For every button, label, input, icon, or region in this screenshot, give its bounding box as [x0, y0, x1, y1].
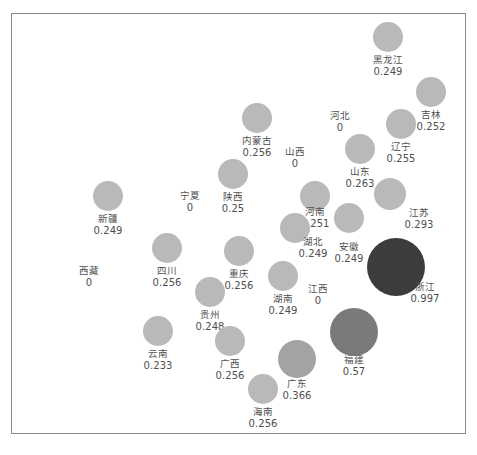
label-province-value: 0.252 [416, 121, 445, 133]
bubble-label-江西: 江西0 [308, 283, 328, 307]
bubble-海南[interactable] [248, 374, 278, 404]
label-province-value: 0.256 [248, 418, 277, 430]
bubble-label-宁夏: 宁夏0 [180, 190, 200, 214]
label-province-name: 安徽 [334, 241, 363, 253]
bubble-label-广东: 广东0.366 [282, 378, 311, 402]
label-province-value: 0 [308, 295, 328, 307]
bubble-label-陕西: 陕西0.25 [222, 191, 245, 215]
label-province-name: 江西 [308, 283, 328, 295]
label-province-value: 0.255 [386, 153, 415, 165]
label-province-value: 0.256 [242, 147, 272, 159]
label-province-value: 0.293 [404, 219, 433, 231]
label-province-value: 0.256 [152, 277, 181, 289]
label-province-name: 江苏 [404, 207, 433, 219]
bubble-layer: 黑龙江0.249吉林0.252河北0辽宁0.255内蒙古0.256山西0山东0.… [0, 0, 477, 455]
label-province-name: 河北 [330, 110, 350, 122]
bubble-新疆[interactable] [93, 181, 123, 211]
bubble-label-福建: 福建0.57 [343, 354, 366, 378]
bubble-四川[interactable] [152, 233, 182, 263]
bubble-江苏[interactable] [374, 178, 406, 210]
label-province-value: 0.249 [93, 225, 122, 237]
label-province-name: 山西 [285, 146, 305, 158]
label-province-name: 云南 [143, 348, 172, 360]
label-province-value: 0.25 [222, 203, 245, 215]
label-province-value: 0.249 [334, 253, 363, 265]
label-province-name: 湖南 [268, 293, 297, 305]
label-province-value: 0 [180, 202, 200, 214]
label-province-value: 0.256 [215, 370, 244, 382]
label-province-name: 内蒙古 [242, 135, 272, 147]
bubble-label-重庆: 重庆0.256 [224, 268, 253, 292]
bubble-内蒙古[interactable] [242, 103, 272, 133]
bubble-辽宁[interactable] [386, 109, 416, 139]
bubble-label-山东: 山东0.263 [345, 166, 374, 190]
label-province-value: 0.57 [343, 366, 366, 378]
label-province-name: 新疆 [93, 213, 122, 225]
label-province-name: 黑龙江 [373, 54, 403, 66]
bubble-湖南[interactable] [268, 261, 298, 291]
bubble-label-山西: 山西0 [285, 146, 305, 170]
label-province-name: 贵州 [195, 309, 224, 321]
bubble-label-湖南: 湖南0.249 [268, 293, 297, 317]
label-province-name: 宁夏 [180, 190, 200, 202]
bubble-label-浙江: 浙江0.997 [410, 281, 439, 305]
bubble-广东[interactable] [278, 340, 316, 378]
bubble-安徽[interactable] [334, 203, 364, 233]
bubble-label-黑龙江: 黑龙江0.249 [373, 54, 403, 78]
bubble-label-新疆: 新疆0.249 [93, 213, 122, 237]
label-province-name: 湖北 [298, 236, 327, 248]
label-province-name: 吉林 [416, 109, 445, 121]
bubble-黑龙江[interactable] [373, 22, 403, 52]
bubble-label-广西: 广西0.256 [215, 358, 244, 382]
label-province-value: 0.249 [373, 66, 403, 78]
bubble-label-河北: 河北0 [330, 110, 350, 134]
label-province-name: 辽宁 [386, 141, 415, 153]
label-province-name: 陕西 [222, 191, 245, 203]
label-province-value: 0.263 [345, 178, 374, 190]
bubble-label-湖北: 湖北0.249 [298, 236, 327, 260]
bubble-label-江苏: 江苏0.293 [404, 207, 433, 231]
label-province-value: 0.256 [224, 280, 253, 292]
label-province-name: 山东 [345, 166, 374, 178]
bubble-云南[interactable] [143, 316, 173, 346]
bubble-福建[interactable] [330, 308, 378, 356]
label-province-name: 浙江 [410, 281, 439, 293]
label-province-value: 0 [79, 277, 99, 289]
label-province-name: 广东 [282, 378, 311, 390]
label-province-name: 海南 [248, 406, 277, 418]
bubble-贵州[interactable] [195, 277, 225, 307]
label-province-name: 广西 [215, 358, 244, 370]
bubble-label-内蒙古: 内蒙古0.256 [242, 135, 272, 159]
bubble-陕西[interactable] [218, 159, 248, 189]
bubble-广西[interactable] [215, 326, 245, 356]
bubble-label-四川: 四川0.256 [152, 265, 181, 289]
bubble-label-辽宁: 辽宁0.255 [386, 141, 415, 165]
label-province-value: 0 [285, 158, 305, 170]
bubble-label-西藏: 西藏0 [79, 265, 99, 289]
bubble-山东[interactable] [345, 134, 375, 164]
bubble-label-安徽: 安徽0.249 [334, 241, 363, 265]
bubble-chart: 黑龙江0.249吉林0.252河北0辽宁0.255内蒙古0.256山西0山东0.… [0, 0, 477, 455]
bubble-label-吉林: 吉林0.252 [416, 109, 445, 133]
label-province-value: 0.366 [282, 390, 311, 402]
bubble-label-云南: 云南0.233 [143, 348, 172, 372]
label-province-value: 0.233 [143, 360, 172, 372]
label-province-value: 0 [330, 122, 350, 134]
label-province-name: 重庆 [224, 268, 253, 280]
label-province-value: 0.249 [298, 248, 327, 260]
label-province-name: 西藏 [79, 265, 99, 277]
bubble-重庆[interactable] [224, 236, 254, 266]
label-province-name: 福建 [343, 354, 366, 366]
label-province-value: 0.249 [268, 305, 297, 317]
label-province-name: 四川 [152, 265, 181, 277]
label-province-value: 0.997 [410, 293, 439, 305]
bubble-吉林[interactable] [416, 77, 446, 107]
bubble-label-海南: 海南0.256 [248, 406, 277, 430]
